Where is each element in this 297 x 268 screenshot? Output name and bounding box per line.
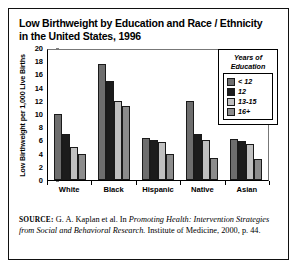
legend-swatch-icon [227,78,235,86]
source-text-1: G. A. Kaplan et al. In [54,215,129,224]
chart-area: Low Birthweight per 1,000 Live Births 02… [17,49,282,204]
bar [62,134,70,180]
bar [254,159,262,180]
y-tick-label: 20 [35,45,43,53]
bar-group [48,50,92,180]
x-axis-category-label: Black [91,185,135,194]
y-tick-label: 12 [35,98,43,106]
figure-container: Low Birthweight by Education and Race / … [8,8,289,260]
y-tick-label: 6 [39,137,43,145]
bar [210,158,218,180]
legend-items: < 121213-1516+ [223,73,273,120]
y-tick-label: 0 [39,177,43,185]
bar [114,101,122,180]
legend-item-label: 12 [238,87,246,96]
source-prefix: SOURCE: [19,215,54,224]
legend-swatch-icon [227,108,235,116]
legend-swatch-icon [227,98,235,106]
x-axis-category-label: White [47,185,91,194]
legend-item[interactable]: 13-15 [227,97,269,106]
legend-item[interactable]: 12 [227,87,269,96]
bar [186,101,194,180]
legend-swatch-icon [227,88,235,96]
bar [98,64,106,180]
bar [150,140,158,180]
y-tick-label: 16 [35,71,43,79]
legend-item[interactable]: < 12 [227,77,269,86]
bar [238,141,246,180]
y-axis-label: Low Birthweight per 1,000 Live Births [15,49,29,181]
legend-item-label: 13-15 [238,97,256,106]
y-axis-label-text: Low Birthweight per 1,000 Live Births [18,54,27,177]
source-text-2: Institute of Medicine, 2000, p. 44. [145,226,260,235]
bar [70,147,78,180]
bar [246,144,254,180]
x-axis-category-label: Native [180,185,224,194]
bar-group [136,50,180,180]
y-tick-label: 2 [39,164,43,172]
legend-item[interactable]: 16+ [227,107,269,116]
y-tick-label: 8 [39,124,43,132]
y-tick-label: 4 [39,151,43,159]
source-note: SOURCE: G. A. Kaplan et al. In Promoting… [19,215,277,236]
legend: Years of Education < 121213-1516+ [218,49,278,125]
bar [166,154,174,180]
bar [158,142,166,180]
x-axis-category-label: Hispanic [136,185,180,194]
x-axis-labels: WhiteBlackHispanicNativeAsian [47,185,269,194]
bar [122,106,130,180]
y-tick-label: 10 [35,111,43,119]
bar [142,138,150,180]
page-title: Low Birthweight by Education and Race / … [19,17,271,43]
legend-title-line-2: Education [223,62,273,71]
y-tick-label: 14 [35,85,43,93]
bar [230,139,238,180]
y-tick-label: 18 [35,58,43,66]
x-axis-category-label: Asian [225,185,269,194]
bar [54,114,62,180]
bar [194,134,202,180]
bar [78,154,86,180]
legend-item-label: 16+ [238,107,250,116]
legend-item-label: < 12 [238,77,252,86]
figure-page: Low Birthweight by Education and Race / … [0,0,297,268]
bar [202,140,210,180]
y-axis-ticks: 02468101214161820 [29,49,43,181]
legend-title-line-1: Years of [223,53,273,62]
x-tick-mark [269,181,270,185]
legend-title: Years of Education [223,53,273,71]
bar [106,81,114,180]
bar-group [92,50,136,180]
